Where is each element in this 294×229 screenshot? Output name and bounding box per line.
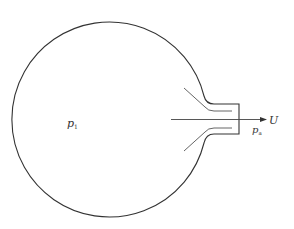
vessel-diagram: p1 pa U bbox=[0, 0, 294, 229]
streamline-lower bbox=[184, 128, 232, 151]
label-velocity: U bbox=[269, 114, 279, 127]
streamline-upper bbox=[184, 88, 232, 111]
arrow-head-icon bbox=[260, 117, 267, 122]
label-pa: pa bbox=[252, 124, 262, 136]
label-p1: p1 bbox=[67, 117, 78, 130]
